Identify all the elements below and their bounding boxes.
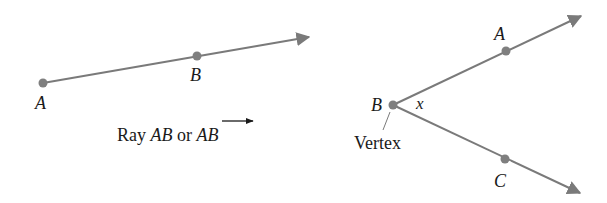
caption-ab-notation: AB [196, 125, 219, 145]
vertex-leader-line [383, 112, 390, 130]
caption-or: or [173, 125, 197, 145]
angle-abc-figure: A B C x Vertex [354, 16, 581, 193]
caption-ab: AB [150, 125, 173, 145]
point-c [501, 155, 510, 164]
ray-ab-line [43, 37, 309, 83]
angle-label-x: x [415, 94, 424, 113]
vertex-point-b [389, 101, 398, 110]
ray-ba-line [393, 16, 581, 105]
point-b [193, 52, 202, 61]
geometry-diagram: A B Ray AB or AB A B C x Vertex [0, 0, 607, 203]
point-a [39, 79, 48, 88]
ray-ab-figure: A B Ray AB or AB [34, 37, 309, 145]
caption-prefix: Ray [117, 125, 151, 145]
vertex-caption: Vertex [354, 133, 401, 153]
label-b: B [190, 65, 201, 85]
label-c: C [494, 171, 507, 191]
point-a [502, 47, 511, 56]
ray-bc-line [393, 105, 580, 193]
label-vertex-b: B [371, 95, 382, 115]
ray-caption: Ray AB or AB [117, 125, 219, 145]
label-a: A [34, 93, 47, 113]
label-a: A [493, 24, 506, 44]
